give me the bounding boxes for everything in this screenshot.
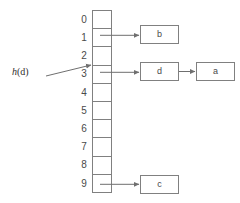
chain-node-label-a: a (196, 67, 235, 76)
slot-index-label-9: 9 (78, 179, 90, 189)
slot-index-label-7: 7 (78, 142, 90, 152)
table-slot-1[interactable] (93, 29, 112, 47)
chain-node-label-b: b (140, 30, 179, 39)
table-slot-6[interactable] (93, 120, 112, 138)
table-slot-9[interactable] (93, 174, 112, 192)
slot-index-label-3: 3 (78, 69, 90, 79)
hash-function-argument: (d) (17, 66, 29, 77)
chain-node-boxes (141, 26, 235, 194)
hash-function-label: h(d) (12, 66, 29, 77)
chain-pointer-arrows (100, 35, 195, 184)
hash-table-array-grid (93, 11, 112, 193)
slot-index-label-5: 5 (78, 106, 90, 116)
hash-table-diagram: 0 1 2 3 4 5 6 7 8 9 b d a c h(d) (0, 0, 240, 203)
table-slot-2[interactable] (93, 47, 112, 65)
table-slot-3[interactable] (93, 65, 112, 83)
table-slot-8[interactable] (93, 156, 112, 174)
slot-index-label-2: 2 (78, 51, 90, 61)
slot-index-label-1: 1 (78, 33, 90, 43)
table-slot-4[interactable] (93, 83, 112, 101)
table-slot-5[interactable] (93, 102, 112, 120)
diagram-linework (0, 0, 240, 203)
table-slot-7[interactable] (93, 138, 112, 156)
slot-index-label-6: 6 (78, 124, 90, 134)
chain-node-label-d: d (140, 67, 179, 76)
table-slot-0[interactable] (93, 11, 112, 29)
slot-index-label-4: 4 (78, 88, 90, 98)
chain-node-label-c: c (140, 180, 179, 189)
slot-index-label-8: 8 (78, 160, 90, 170)
slot-index-label-0: 0 (78, 15, 90, 25)
